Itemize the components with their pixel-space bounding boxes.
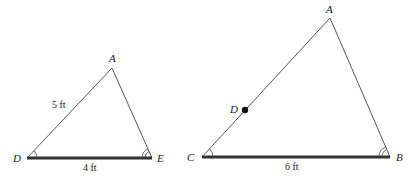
point-label-d: D (229, 103, 238, 115)
side-ae (112, 68, 152, 158)
side-label-de: 4 ft (83, 162, 97, 173)
point-d-dot (242, 107, 248, 113)
side-ca (202, 18, 330, 157)
vertex-label-e: E (156, 152, 164, 164)
vertex-label-d: D (12, 152, 21, 164)
side-label-cb: 6 ft (285, 161, 299, 172)
vertex-label-a: A (108, 52, 116, 64)
triangle-ade: A D E 5 ft 4 ft (12, 52, 164, 173)
vertex-label-c: C (187, 151, 195, 163)
vertex-label-a: A (325, 3, 333, 15)
side-ab (330, 18, 390, 157)
vertex-label-b: B (396, 151, 403, 163)
similar-triangles-diagram: A D E 5 ft 4 ft A C B D 6 ft (0, 0, 420, 178)
side-da (27, 68, 112, 158)
triangle-acb: A C B D 6 ft (187, 3, 403, 172)
side-label-da: 5 ft (52, 99, 66, 110)
